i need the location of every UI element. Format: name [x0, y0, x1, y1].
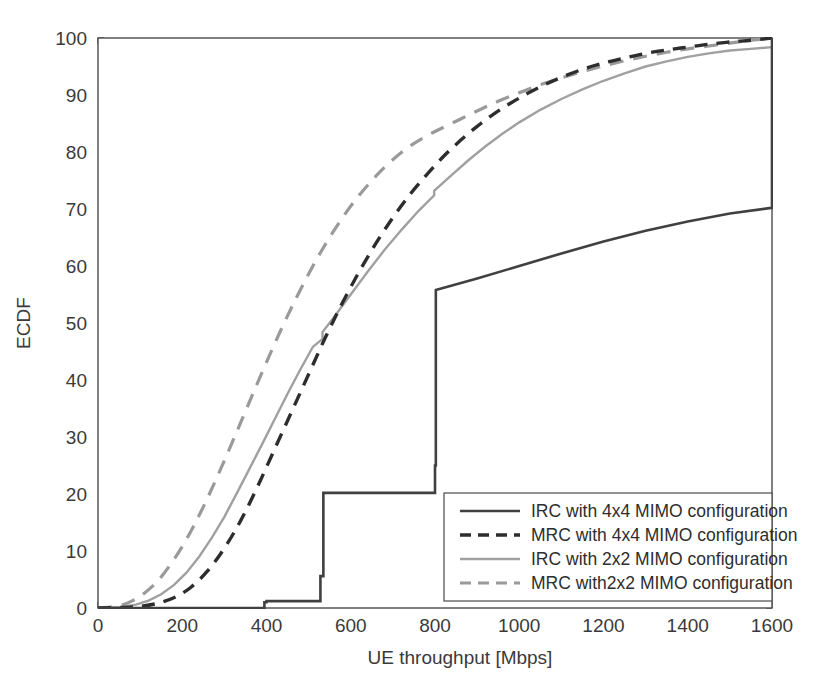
y-tick-label: 90: [66, 85, 87, 106]
x-tick-label: 1400: [667, 615, 709, 636]
x-tick-label: 0: [93, 615, 104, 636]
y-tick-label: 10: [66, 541, 87, 562]
legend-item-label: MRC with 4x4 MIMO configuration: [531, 525, 797, 545]
y-tick-label: 40: [66, 370, 87, 391]
y-tick-label: 30: [66, 427, 87, 448]
y-tick-label: 100: [55, 28, 87, 49]
x-tick-label: 1600: [751, 615, 793, 636]
x-axis-title: UE throughput [Mbps]: [368, 647, 553, 668]
x-tick-label: 600: [335, 615, 367, 636]
legend-item-label: IRC with 2x2 MIMO configuration: [531, 549, 788, 569]
x-tick-label: 800: [419, 615, 451, 636]
legend-item-label: MRC with2x2 MIMO configuration: [531, 573, 793, 593]
x-tick-label: 200: [166, 615, 198, 636]
y-axis-title: ECDF: [13, 297, 34, 349]
y-tick-label: 0: [76, 598, 87, 619]
y-tick-label: 80: [66, 142, 87, 163]
y-tick-label: 20: [66, 484, 87, 505]
y-tick-label: 60: [66, 256, 87, 277]
y-tick-label: 70: [66, 199, 87, 220]
legend: IRC with 4x4 MIMO configurationMRC with …: [444, 493, 797, 601]
x-tick-label: 1200: [582, 615, 624, 636]
y-tick-label: 50: [66, 313, 87, 334]
figure-container: 02004006008001000120014001600 0102030405…: [0, 0, 818, 684]
legend-item-label: IRC with 4x4 MIMO configuration: [531, 501, 788, 521]
x-tick-label: 1000: [498, 615, 540, 636]
ecdf-chart: 02004006008001000120014001600 0102030405…: [0, 0, 818, 684]
x-tick-label: 400: [251, 615, 283, 636]
x-axis-tick-labels: 02004006008001000120014001600: [93, 615, 793, 636]
